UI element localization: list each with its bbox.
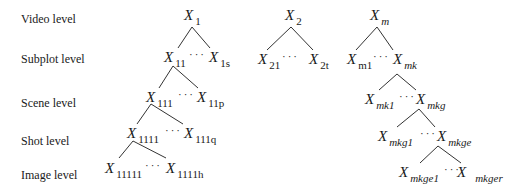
ellipsis: ···	[373, 51, 390, 62]
node-xmkg1: Xmkg1	[378, 129, 413, 148]
ellipsis: ···	[282, 51, 299, 62]
node-x11: X11	[164, 50, 186, 69]
node-x11111: X11111	[105, 161, 142, 180]
ellipsis: ···	[189, 49, 206, 60]
node-x1111: X1111	[127, 126, 159, 145]
node-x1111h: X1111h	[166, 161, 203, 180]
node-x1s: X1s	[209, 50, 230, 69]
node-xmkge: Xmkge	[437, 129, 471, 148]
node-x111q: X111q	[184, 126, 216, 145]
node-x2: X2	[285, 8, 302, 27]
node-xmk1: Xmk1	[365, 92, 395, 111]
node-xm: Xm	[370, 8, 389, 27]
node-xmkge1: Xmkge1	[399, 165, 439, 184]
node-x21: X21	[258, 52, 280, 71]
ellipsis: ···	[399, 91, 416, 102]
ellipsis: ···	[420, 128, 437, 139]
node-xm1: Xm1	[347, 52, 372, 71]
ellipsis: ···	[145, 160, 162, 171]
node-x11p: X11p	[197, 90, 224, 109]
ellipsis: ···	[165, 125, 182, 136]
node-x111: X111	[146, 90, 173, 109]
node-xmkger: Xmkger	[457, 165, 503, 184]
ellipsis: ···	[178, 89, 195, 100]
node-xmkg: Xmkg	[416, 92, 446, 111]
node-xmk: Xmk	[393, 52, 417, 71]
node-x2t: X2t	[309, 52, 329, 71]
node-x1: X1	[184, 8, 201, 27]
